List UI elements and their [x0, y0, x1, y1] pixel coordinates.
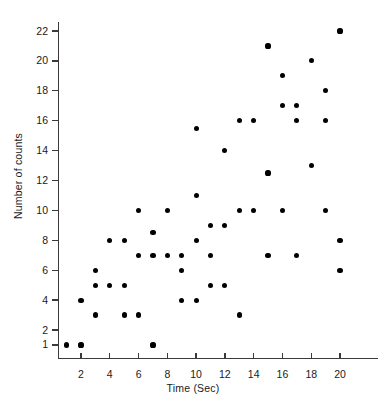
data-point [265, 170, 270, 175]
y-tick-mark [52, 90, 58, 91]
data-point [208, 283, 213, 288]
x-axis-line [58, 358, 378, 359]
data-point [136, 208, 141, 213]
data-point [78, 342, 83, 347]
data-point [179, 268, 184, 273]
y-tick-label-text: 6 [24, 265, 48, 276]
data-point [309, 163, 314, 168]
data-point [337, 238, 342, 243]
y-tick-label: 1 [0, 339, 48, 350]
y-tick-label: 4 [0, 295, 48, 306]
x-tick-label: 12 [210, 364, 240, 382]
x-tick-label-text: 2 [78, 368, 84, 380]
y-tick-label-text: 16 [24, 115, 48, 126]
data-point [122, 283, 127, 288]
data-point [165, 208, 170, 213]
y-tick-label: 10 [0, 205, 48, 216]
x-tick-mark [253, 353, 254, 359]
y-tick-mark [52, 299, 58, 300]
data-point [107, 283, 112, 288]
data-point [265, 43, 270, 48]
x-axis-title: Time (Sec) [0, 382, 386, 394]
data-point [251, 208, 256, 213]
x-tick-label-text: 14 [248, 368, 260, 380]
x-tick-label-text: 16 [277, 368, 289, 380]
x-tick-label-text: 18 [305, 368, 317, 380]
data-point [208, 253, 213, 258]
x-tick-label: 20 [325, 364, 355, 382]
data-point [93, 312, 98, 317]
data-point [150, 253, 155, 258]
data-point [194, 193, 199, 198]
x-tick-label: 16 [267, 364, 297, 382]
x-tick-mark [109, 353, 110, 359]
data-point [64, 342, 69, 347]
x-tick-label-text: 10 [190, 368, 202, 380]
y-tick-label-text: 1 [24, 339, 48, 350]
y-tick-label: 12 [0, 175, 48, 186]
y-tick-label: 16 [0, 115, 48, 126]
y-tick-label: 2 [0, 325, 48, 336]
x-tick-mark [339, 353, 340, 359]
data-point [194, 298, 199, 303]
y-tick-mark [52, 329, 58, 330]
y-tick-label: 14 [0, 145, 48, 156]
y-tick-label-text: 4 [24, 295, 48, 306]
data-point [179, 298, 184, 303]
y-tick-label: 6 [0, 265, 48, 276]
x-tick-mark [138, 353, 139, 359]
data-point [294, 118, 299, 123]
data-point [280, 208, 285, 213]
scatter-plot-figure: 1246810121416182022 2468101214161820 Tim… [0, 0, 386, 409]
y-axis-line [58, 22, 59, 359]
data-point [122, 238, 127, 243]
data-point [309, 58, 314, 63]
x-tick-label: 14 [239, 364, 269, 382]
data-point [93, 268, 98, 273]
data-point [122, 312, 127, 317]
y-tick-mark [52, 210, 58, 211]
y-tick-mark [52, 180, 58, 181]
x-tick-label: 4 [95, 364, 125, 382]
x-tick-mark [80, 353, 81, 359]
data-point [136, 253, 141, 258]
data-point [237, 118, 242, 123]
data-point [323, 208, 328, 213]
y-tick-label-text: 22 [24, 26, 48, 37]
y-tick-label-text: 14 [24, 145, 48, 156]
y-tick-label-text: 20 [24, 55, 48, 66]
data-point [337, 28, 342, 33]
y-tick-mark [52, 270, 58, 271]
data-point [194, 126, 199, 131]
data-point [323, 88, 328, 93]
x-tick-label-text: 6 [136, 368, 142, 380]
x-tick-label: 18 [296, 364, 326, 382]
data-point [222, 283, 227, 288]
y-tick-label: 18 [0, 85, 48, 96]
data-point [78, 298, 83, 303]
x-tick-mark [311, 353, 312, 359]
y-tick-mark [52, 240, 58, 241]
data-point [165, 253, 170, 258]
y-axis-title: Number of counts [12, 96, 24, 256]
y-tick-label: 8 [0, 235, 48, 246]
y-tick-label: 20 [0, 55, 48, 66]
y-tick-label: 22 [0, 26, 48, 37]
y-tick-label-text: 18 [24, 85, 48, 96]
data-point [150, 230, 155, 235]
y-tick-label-text: 10 [24, 205, 48, 216]
data-point [294, 253, 299, 258]
y-tick-mark [52, 30, 58, 31]
data-point [179, 253, 184, 258]
data-point [280, 103, 285, 108]
data-point [136, 312, 141, 317]
x-tick-label-text: 12 [219, 368, 231, 380]
data-point [107, 238, 112, 243]
x-tick-label-text: 20 [334, 368, 346, 380]
x-tick-label-text: 8 [164, 368, 170, 380]
x-tick-mark [282, 353, 283, 359]
data-point [150, 342, 155, 347]
x-tick-label-text: 4 [107, 368, 113, 380]
data-point [194, 238, 199, 243]
data-point [222, 148, 227, 153]
